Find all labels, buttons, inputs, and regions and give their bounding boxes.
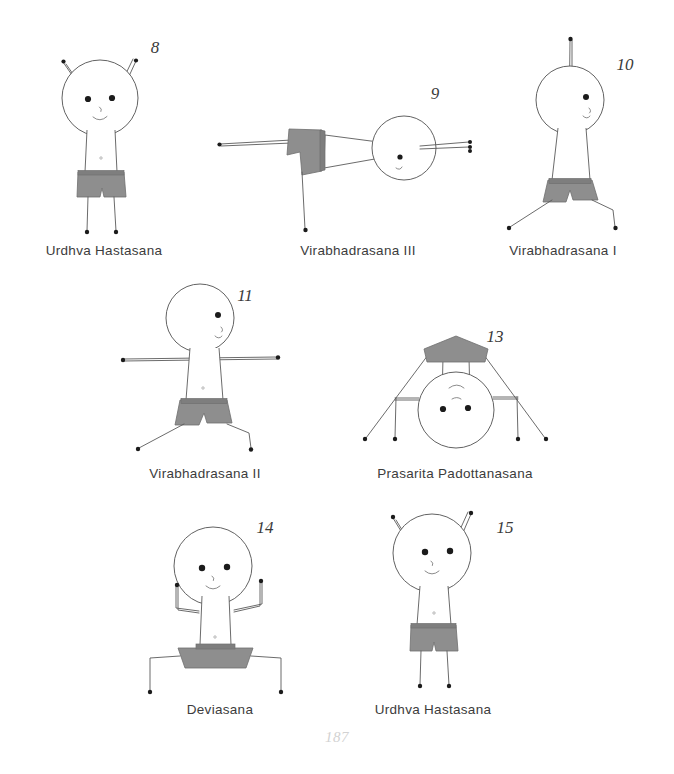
figure-label-virabhadrasana-i: Virabhadrasana I <box>509 243 616 258</box>
figure-label-deviasana: Deviasana <box>187 702 254 717</box>
figure-14-deviasana <box>148 527 283 694</box>
figure-9-virabhadrasana-iii <box>217 116 472 232</box>
figure-13-prasarita-padottanasana <box>363 336 548 448</box>
figure-number-10: 10 <box>617 55 634 75</box>
figure-number-8: 8 <box>151 38 160 58</box>
figure-label-virabhadrasana-ii: Virabhadrasana II <box>149 466 260 481</box>
yoga-pose-illustrations: .ln { fill:none; stroke:#5a5a5a; stroke-… <box>0 0 674 774</box>
figure-label-virabhadrasana-iii: Virabhadrasana III <box>300 243 415 258</box>
figure-15-urdhva-hastasana <box>391 511 473 688</box>
figure-number-15: 15 <box>497 518 514 538</box>
figure-label-prasarita-padottanasana: Prasarita Padottanasana <box>377 466 533 481</box>
figure-10-virabhadrasana-i <box>507 37 618 230</box>
figure-number-14: 14 <box>257 518 274 538</box>
page-canvas: .ln { fill:none; stroke:#5a5a5a; stroke-… <box>0 0 674 774</box>
figure-label-urdhva-hastasana-15: Urdhva Hastasana <box>375 702 492 717</box>
figure-8-urdhva-hastasana <box>61 58 138 234</box>
figure-number-11: 11 <box>237 286 253 306</box>
page-number: 187 <box>325 729 349 746</box>
figure-11-virabhadrasana-ii <box>121 284 280 452</box>
figure-number-9: 9 <box>431 84 440 104</box>
figure-number-13: 13 <box>487 327 504 347</box>
figure-label-urdhva-hastasana-8: Urdhva Hastasana <box>46 243 163 258</box>
